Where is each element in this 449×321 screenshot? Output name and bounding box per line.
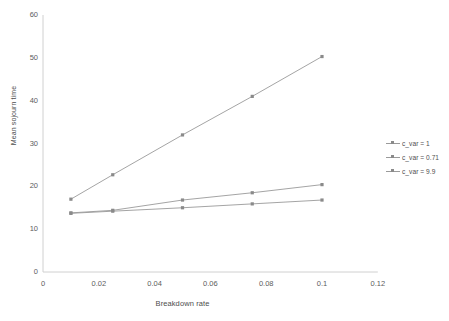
data-point-marker [320,183,323,186]
series-line [71,185,322,213]
x-axis-tick-label: 0.08 [246,279,286,288]
data-point-marker [251,202,254,205]
legend-item[interactable]: c_var = 0.71 [386,150,448,164]
axis-lines [43,15,378,272]
legend-line-marker-icon [386,153,400,161]
x-axis-tick-label: 0.04 [135,279,175,288]
legend-item-label: c_var = 0.71 [402,154,439,161]
legend-item-label: c_var = 9.9 [402,168,435,175]
legend-line-marker-icon [386,139,400,147]
x-axis-tick-label: 0.12 [358,279,398,288]
legend: c_var = 1 c_var = 0.71 c_var = 9.9 [386,136,448,178]
plot-area [0,0,449,321]
data-point-marker [69,198,72,201]
data-point-marker [251,95,254,98]
series-layer [69,55,323,215]
x-axis-tick-label: 0.06 [190,279,230,288]
chart-series [69,183,323,214]
data-point-marker [111,173,114,176]
data-point-marker [320,198,323,201]
legend-line-marker-icon [386,167,400,175]
data-point-marker [181,198,184,201]
data-point-marker [181,133,184,136]
legend-item[interactable]: c_var = 9.9 [386,164,448,178]
chart-series [69,55,323,201]
x-axis-tick-label: 0.1 [302,279,342,288]
series-line [71,200,322,213]
legend-item-label: c_var = 1 [402,140,430,147]
data-point-marker [251,191,254,194]
chart-series [69,198,323,214]
x-axis-tick-label: 0.02 [79,279,119,288]
data-point-marker [69,212,72,215]
data-point-marker [111,210,114,213]
x-axis-tick-label: 0 [23,279,63,288]
data-point-marker [181,206,184,209]
data-point-marker [320,55,323,58]
line-chart: 0102030405060 Mean sojourn time Breakdow… [0,0,449,321]
legend-item[interactable]: c_var = 1 [386,136,448,150]
series-line [71,57,322,200]
